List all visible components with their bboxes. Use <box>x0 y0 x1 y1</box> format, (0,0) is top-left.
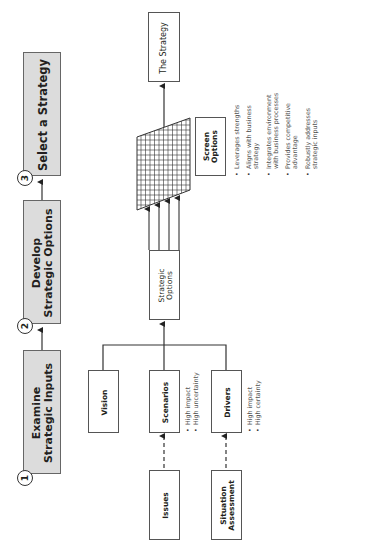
criteria-item: Robustly addressesstrategic inputs <box>304 86 318 176</box>
strategic-options-box: Strategic Options <box>149 250 180 320</box>
the-strategy-label: The Strategy <box>148 13 180 83</box>
stage-2-label: Develop Strategic Options <box>24 201 62 325</box>
scenarios-box: Scenarios <box>149 370 180 433</box>
the-strategy-box: The Strategy <box>148 12 180 82</box>
drivers-bullets: High impact High certainty <box>246 362 266 432</box>
vision-label: Vision <box>89 371 120 434</box>
stage-1-box: Examine Strategic Inputs <box>23 350 61 474</box>
stage-1-number: 1 <box>17 470 33 486</box>
strategic-options-label: Strategic Options <box>150 251 181 321</box>
screen-options-label: Screen Options <box>195 117 226 176</box>
stage-2-box: Develop Strategic Options <box>23 200 61 324</box>
bullet-item: High impact <box>184 362 191 432</box>
situation-assessment-label: Situation Assessment <box>212 471 243 541</box>
criteria-item: Leverages strengths <box>233 86 240 176</box>
screen-options-box: Screen Options <box>195 117 226 176</box>
stage-3-label: Select a Strategy <box>24 53 62 177</box>
stage-2-number: 2 <box>17 318 33 334</box>
vision-box: Vision <box>88 370 119 433</box>
stage-1-label: Examine Strategic Inputs <box>24 351 62 475</box>
criteria-item: Provides competitiveadvantage <box>284 86 298 176</box>
criteria-item: Integrates environmentwith business proc… <box>265 86 279 176</box>
bullet-item: High impact <box>246 362 253 432</box>
screen-grid <box>130 110 195 215</box>
bullet-item: High uncertainty <box>192 362 199 432</box>
stage-3-number: 3 <box>17 170 33 186</box>
scenarios-bullets: High impact High uncertainty <box>184 362 204 432</box>
drivers-label: Drivers <box>212 371 243 434</box>
bullet-item: High certainty <box>254 362 261 432</box>
drivers-box: Drivers <box>211 370 242 433</box>
issues-label: Issues <box>150 471 181 541</box>
criteria-item: Aligns with businessstrategy <box>245 86 259 176</box>
situation-assessment-box: Situation Assessment <box>211 470 242 540</box>
scenarios-label: Scenarios <box>150 371 181 434</box>
stage-3-box: Select a Strategy <box>23 52 61 176</box>
screen-criteria-list: Leverages strengths Aligns with business… <box>233 86 323 176</box>
issues-box: Issues <box>149 470 180 540</box>
